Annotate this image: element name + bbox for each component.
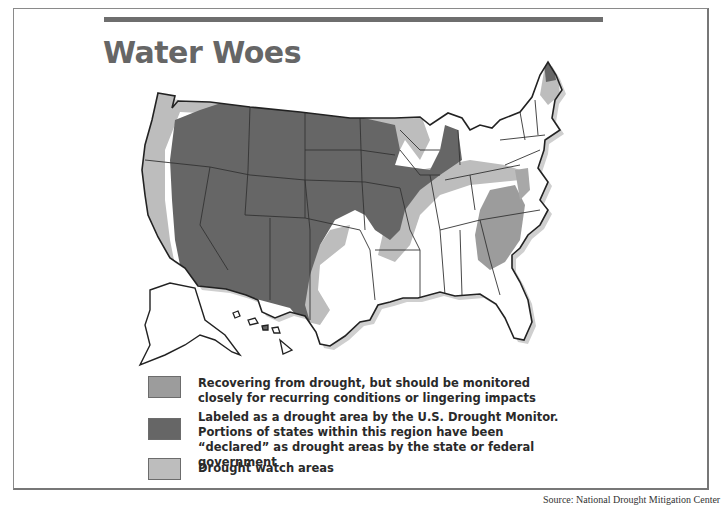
legend-item-recovering: Recovering from drought, but should be m… (148, 376, 578, 406)
source-credit: Source: National Drought Mitigation Cent… (543, 494, 720, 505)
legend-swatch-watch (148, 458, 181, 480)
legend-label-recovering: Recovering from drought, but should be m… (198, 376, 578, 406)
legend-item-watch: Drought watch areas (148, 458, 578, 480)
legend-swatch-drought (148, 418, 181, 440)
legend-label-watch: Drought watch areas (198, 461, 578, 476)
legend-swatch-recovering (148, 376, 181, 398)
